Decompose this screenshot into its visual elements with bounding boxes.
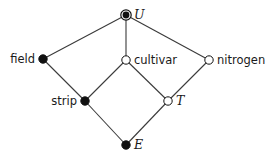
node-nitrogen: nitrogen: [205, 53, 265, 67]
node-u: U: [121, 7, 145, 22]
filled-dot-icon: [39, 55, 47, 63]
edges: [43, 15, 209, 145]
filled-dot-icon: [122, 141, 130, 149]
node-cultivar: cultivar: [122, 53, 178, 67]
nodes: UfieldcultivarnitrogenstripTE: [10, 7, 265, 152]
node-label: nitrogen: [217, 53, 265, 67]
edge-U-field: [43, 15, 126, 59]
node-label: field: [10, 52, 35, 66]
node-label: E: [133, 137, 143, 152]
filled-dot-icon: [81, 97, 89, 105]
node-label: cultivar: [134, 53, 177, 67]
node-label: T: [176, 93, 186, 108]
edge-strip-E: [85, 101, 126, 145]
node-e: E: [122, 137, 143, 152]
node-label: strip: [51, 94, 77, 108]
open-dot-icon: [122, 56, 130, 64]
filled-dot-icon: [123, 12, 130, 19]
hasse-diagram: UfieldcultivarnitrogenstripTE: [0, 0, 269, 160]
open-dot-icon: [205, 56, 213, 64]
node-strip: strip: [51, 94, 89, 108]
node-label: U: [134, 7, 145, 22]
node-field: field: [10, 52, 47, 66]
edge-T-E: [126, 101, 168, 145]
edge-cultivar-strip: [85, 60, 126, 101]
node-t: T: [164, 93, 186, 108]
open-dot-icon: [164, 97, 172, 105]
